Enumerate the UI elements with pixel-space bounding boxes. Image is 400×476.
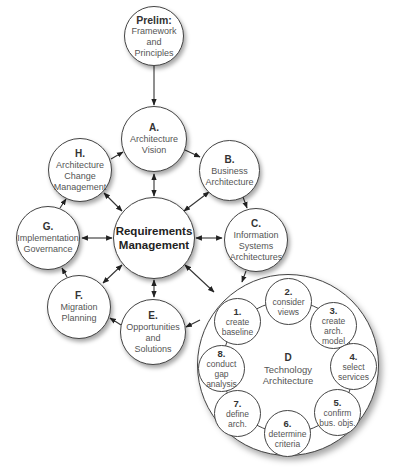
d-step-2[interactable]: 2. consider views <box>265 278 312 325</box>
prelim-label: Framework and Principles <box>131 26 176 59</box>
phase-e-code: E. <box>148 310 157 322</box>
d-step-2-code: 2. <box>285 286 293 297</box>
phase-h-label: Architecture Change Management <box>54 160 107 193</box>
d-step-6-label: determine criteria <box>269 429 307 449</box>
d-step-5-label: confirm bus. objs. <box>319 408 355 428</box>
phase-a-label: Architecture Vision <box>130 134 178 156</box>
node-phase-h[interactable]: H. Architecture Change Management <box>48 138 112 202</box>
node-phase-e[interactable]: E. Opportunities and Solutions <box>120 299 186 365</box>
d-step-6[interactable]: 6. determine criteria <box>264 410 311 457</box>
d-step-1-label: create baseline <box>222 317 254 337</box>
d-step-1-code: 1. <box>234 306 242 317</box>
d-step-1[interactable]: 1. create baseline <box>214 298 261 345</box>
d-step-3-code: 3. <box>330 305 338 316</box>
d-step-5-code: 5. <box>334 397 342 408</box>
d-step-3[interactable]: 3. create arch. model <box>310 302 357 349</box>
phase-b-label: Business Architecture <box>205 166 253 188</box>
arrow-a-to-b <box>185 150 200 157</box>
phase-g-label: Implementation Governance <box>17 233 79 255</box>
phase-e-label: Opportunities and Solutions <box>126 322 180 355</box>
node-prelim[interactable]: Prelim: Framework and Principles <box>124 6 184 66</box>
arrow-e-to-f <box>110 318 121 325</box>
arrow-req-h <box>104 193 122 211</box>
arrow-b-to-c <box>243 197 247 208</box>
prelim-code: Prelim: <box>136 14 172 26</box>
d-step-5[interactable]: 5. confirm bus. objs. <box>314 389 361 436</box>
arrow-f-to-g <box>62 268 67 277</box>
d-step-7-code: 7. <box>234 398 242 409</box>
arrow-g-to-h <box>60 199 66 208</box>
phase-a-code: A. <box>149 122 159 134</box>
d-step-7-label: define arch. <box>226 409 249 429</box>
arrow-h-to-a <box>111 152 123 159</box>
node-requirements-management[interactable]: Requirements Management <box>113 197 195 279</box>
node-phase-f[interactable]: F. Migration Planning <box>47 275 111 339</box>
arrow-d-to-e <box>186 320 200 327</box>
phase-c-label: Information Systems Architectures <box>230 230 283 263</box>
arrow-req-b <box>184 192 209 211</box>
phase-b-code: B. <box>225 154 235 166</box>
phase-c-code: C. <box>251 218 261 230</box>
d-step-3-label: create arch. model <box>322 316 346 346</box>
phase-f-label: Migration Planning <box>60 302 97 324</box>
d-step-7[interactable]: 7. define arch. <box>214 390 261 437</box>
d-step-4-code: 4. <box>350 351 358 362</box>
d-step-2-label: consider views <box>272 297 304 317</box>
node-phase-a[interactable]: A. Architecture Vision <box>121 106 187 172</box>
requirements-management-label: Requirements Management <box>116 224 193 252</box>
d-step-8-label: conduct gap analysis <box>206 359 237 389</box>
d-step-4-label: select services <box>338 362 369 382</box>
arrow-req-d <box>185 265 214 292</box>
phase-d-label: Technology Architecture <box>248 364 328 386</box>
phase-g-code: G. <box>43 221 54 233</box>
d-step-4[interactable]: 4. select services <box>330 343 377 390</box>
phase-f-code: F. <box>75 290 83 302</box>
togaf-adm-diagram: Prelim: Framework and Principles A. Arch… <box>0 0 400 476</box>
phase-h-code: H. <box>75 148 85 160</box>
arrow-req-f <box>103 265 122 283</box>
node-phase-c[interactable]: C. Information Systems Architectures <box>224 208 288 272</box>
node-phase-b[interactable]: B. Business Architecture <box>199 140 260 201</box>
node-phase-g[interactable]: G. Implementation Governance <box>16 206 80 270</box>
phase-d-center-label: D Technology Architecture <box>248 352 328 386</box>
d-step-8[interactable]: 8. conduct gap analysis <box>198 345 245 392</box>
d-step-6-code: 6. <box>284 418 292 429</box>
arrow-c-to-d <box>242 271 246 282</box>
phase-d-code: D <box>248 352 328 364</box>
d-step-8-code: 8. <box>218 348 226 359</box>
